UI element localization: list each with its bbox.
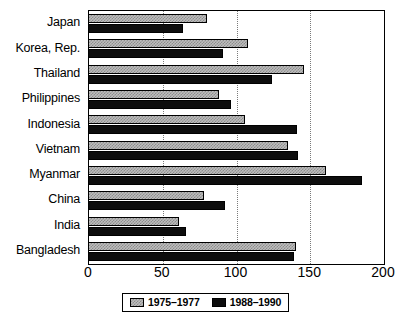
- x-axis-tick-labels: 050100150200: [88, 265, 383, 283]
- legend-label: 1988–1990: [230, 297, 282, 308]
- x-tick-label: 200: [371, 265, 394, 279]
- bar-group: [89, 163, 384, 188]
- bar-group: [89, 62, 384, 87]
- legend-label: 1975–1977: [148, 297, 200, 308]
- bar: [89, 39, 248, 48]
- category-label: Philippines: [0, 86, 84, 111]
- bar: [89, 141, 288, 150]
- bar: [89, 151, 298, 160]
- bar: [89, 100, 231, 109]
- bar: [89, 75, 272, 84]
- legend-item: 1988–1990: [212, 297, 282, 308]
- bar: [89, 90, 219, 99]
- bar-group: [89, 36, 384, 61]
- bar: [89, 176, 362, 185]
- bar: [89, 125, 297, 134]
- x-tick-label: 150: [298, 265, 321, 279]
- bar: [89, 115, 245, 124]
- bar: [89, 49, 223, 58]
- category-label: Vietnam: [0, 136, 84, 161]
- bar: [89, 242, 296, 251]
- category-label: Thailand: [0, 61, 84, 86]
- legend-item: 1975–1977: [130, 297, 200, 308]
- bar: [89, 14, 207, 23]
- x-tick-label: 100: [224, 265, 247, 279]
- bar-chart: JapanKorea, Rep.ThailandPhilippinesIndon…: [0, 0, 399, 323]
- category-label: Bangladesh: [0, 238, 84, 263]
- x-tick-label: 50: [154, 265, 170, 279]
- category-label: China: [0, 187, 84, 212]
- bar-group: [89, 188, 384, 213]
- bar-group: [89, 239, 384, 264]
- bar: [89, 24, 183, 33]
- bar-group: [89, 213, 384, 238]
- bar-group: [89, 137, 384, 162]
- bar: [89, 166, 326, 175]
- category-axis-labels: JapanKorea, Rep.ThailandPhilippinesIndon…: [0, 10, 84, 263]
- bar: [89, 252, 294, 261]
- bar-group: [89, 87, 384, 112]
- category-label: Korea, Rep.: [0, 35, 84, 60]
- bar: [89, 227, 186, 236]
- bar-groups: [89, 11, 384, 264]
- bar: [89, 191, 204, 200]
- category-label: Indonesia: [0, 111, 84, 136]
- chart-legend: 1975–19771988–1990: [122, 293, 289, 312]
- bar: [89, 217, 179, 226]
- x-tick-label: 0: [84, 265, 92, 279]
- bar-group: [89, 112, 384, 137]
- category-label: Myanmar: [0, 162, 84, 187]
- legend-swatch-icon: [212, 298, 226, 307]
- bar: [89, 201, 225, 210]
- bar: [89, 65, 304, 74]
- bar-group: [89, 11, 384, 36]
- legend-swatch-icon: [130, 298, 144, 307]
- plot-area: [88, 10, 385, 265]
- category-label: India: [0, 212, 84, 237]
- category-label: Japan: [0, 10, 84, 35]
